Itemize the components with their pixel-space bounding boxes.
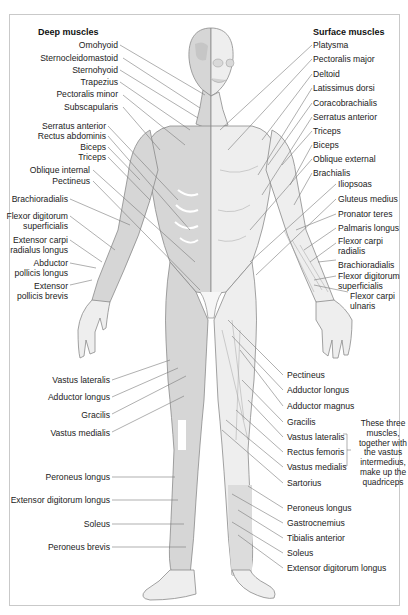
- label-rectus-femoris: Rectus femoris: [287, 447, 344, 457]
- label-latissimus-dorsi: Latissimus dorsi: [313, 83, 375, 93]
- label-pectineus-deep: Pectineus: [52, 176, 90, 186]
- label-omohyoid: Omohyoid: [79, 40, 118, 50]
- label-soleus-surface: Soleus: [287, 548, 313, 558]
- label-gracilis-surface: Gracilis: [287, 417, 316, 427]
- label-flexor-carpi-ulnaris-1: Flexor carpi: [350, 291, 395, 301]
- label-gracilis-deep: Gracilis: [81, 410, 110, 420]
- quadriceps-note: These three muscles, together with the v…: [350, 419, 408, 488]
- label-triceps-deep: Triceps: [78, 152, 106, 162]
- label-flexor-digitorum-superficialis-deep-1: Flexor digitorum: [6, 211, 68, 221]
- label-triceps-surface: Triceps: [313, 126, 341, 136]
- label-iliopsoas: Iliopsoas: [338, 179, 372, 189]
- label-tibialis-anterior: Tibialis anterior: [287, 533, 345, 543]
- label-peroneus-longus-deep: Peroneus longus: [46, 472, 111, 482]
- deep-muscles-heading: Deep muscles: [38, 27, 99, 37]
- label-flexor-digitorum-superficialis-surface-2: superficialis: [338, 281, 383, 291]
- label-extensor-digitorum-longus-deep: Extensor digitorum longus: [11, 495, 110, 505]
- label-pectineus-surface: Pectineus: [287, 370, 325, 380]
- label-vastus-lateralis-deep: Vastus lateralis: [52, 375, 110, 385]
- label-oblique-external: Oblique external: [313, 154, 376, 164]
- label-serratus-anterior-deep: Serratus anterior: [42, 121, 106, 131]
- label-biceps-surface: Biceps: [313, 140, 339, 150]
- label-adductor-magnus: Adductor magnus: [287, 401, 354, 411]
- label-flexor-digitorum-superficialis-surface-1: Flexor digitorum: [338, 271, 400, 281]
- label-peroneus-brevis: Peroneus brevis: [48, 542, 110, 552]
- label-platysma: Platysma: [313, 40, 348, 50]
- label-vastus-medialis-surface: Vastus medialis: [287, 462, 347, 472]
- label-vastus-lateralis-surface: Vastus lateralis: [287, 432, 345, 442]
- label-sternohyoid: Sternohyoid: [72, 65, 118, 75]
- label-coracobrachialis: Coracobrachialis: [313, 98, 377, 108]
- label-pectoralis-major: Pectoralis major: [313, 54, 375, 64]
- label-deltoid: Deltoid: [313, 69, 340, 79]
- note-line: quadriceps: [350, 478, 408, 488]
- label-subscapularis: Subscapularis: [64, 102, 118, 112]
- label-flexor-carpi-radialis-1: Flexor carpi: [338, 236, 383, 246]
- label-extensor-digitorum-longus-surface: Extensor digitorum longus: [287, 563, 386, 573]
- label-soleus-deep: Soleus: [84, 519, 110, 529]
- label-rectus-abdominis: Rectus abdominis: [38, 131, 106, 141]
- label-pronator-teres: Pronator teres: [338, 209, 392, 219]
- label-extensor-carpi-1: Extensor carpi: [13, 235, 68, 245]
- label-biceps-deep: Biceps: [80, 142, 106, 152]
- label-brachialis: Brachialis: [313, 168, 350, 178]
- label-abductor-pollicis-1: Abductor: [34, 258, 68, 268]
- surface-muscles-heading: Surface muscles: [313, 27, 385, 37]
- label-pectoralis-minor: Pectoralis minor: [56, 89, 118, 99]
- label-sartorius: Sartorius: [287, 478, 321, 488]
- label-sternocleidomastoid: Sternocleidomastoid: [40, 53, 118, 63]
- label-brachioradialis-deep: Brachioradialis: [12, 194, 68, 204]
- label-abductor-pollicis-2: pollicis longus: [14, 268, 68, 278]
- label-oblique-internal: Oblique internal: [30, 165, 90, 175]
- label-trapezius: Trapezius: [81, 77, 118, 87]
- label-vastus-medialis-deep: Vastus medialis: [50, 428, 110, 438]
- label-extensor-carpi-2: radialus longus: [10, 245, 68, 255]
- label-flexor-digitorum-superficialis-deep-2: superficialis: [23, 221, 68, 231]
- label-gastrocnemius: Gastrocnemius: [287, 518, 345, 528]
- label-brachioradialis-surface: Brachioradialis: [338, 260, 394, 270]
- label-palmaris-longus: Palmaris longus: [338, 223, 399, 233]
- label-gluteus-medius: Gluteus medius: [338, 194, 398, 204]
- label-adductor-longus-surface: Adductor longus: [287, 385, 349, 395]
- label-adductor-longus-deep: Adductor longus: [48, 392, 110, 402]
- label-peroneus-longus-surface: Peroneus longus: [287, 503, 352, 513]
- label-serratus-anterior-surface: Serratus anterior: [313, 112, 377, 122]
- label-flexor-carpi-ulnaris-2: ulnaris: [350, 301, 375, 311]
- label-extensor-pollicis-1: Extensor: [34, 281, 68, 291]
- label-extensor-pollicis-2: pollicis brevis: [17, 291, 68, 301]
- label-flexor-carpi-radialis-2: radialis: [338, 246, 365, 256]
- head: [189, 28, 234, 96]
